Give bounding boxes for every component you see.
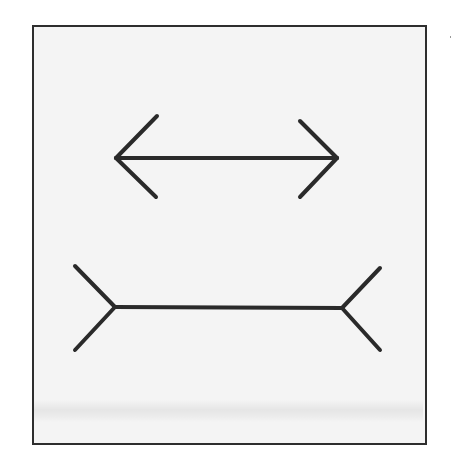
- top-double-arrow: [116, 116, 337, 197]
- left-wing-line: [75, 307, 115, 350]
- left-wing-line: [116, 116, 157, 158]
- left-wing-line: [116, 158, 156, 197]
- left-wing-line: [75, 266, 115, 307]
- right-wing-line: [300, 158, 337, 197]
- right-wing-line: [342, 308, 380, 350]
- right-wing-line: [300, 121, 337, 158]
- muller-lyer-diagram: [0, 0, 452, 467]
- right-wing-line: [342, 268, 380, 308]
- bottom-finned-line: [75, 266, 380, 350]
- shaft-line: [115, 307, 342, 308]
